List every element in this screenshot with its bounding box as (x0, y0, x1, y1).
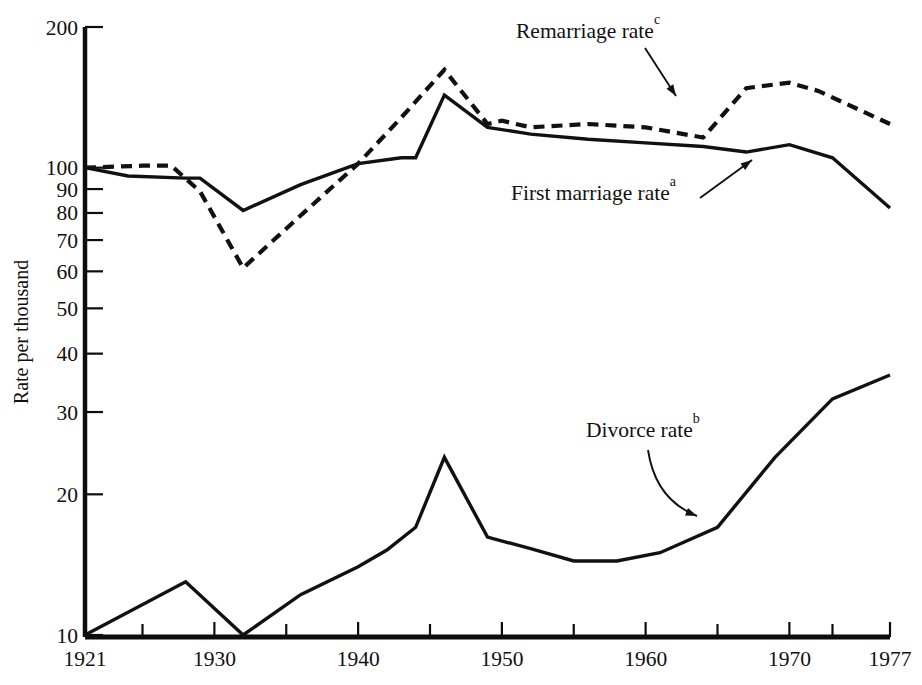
y-tick-label-200: 200 (46, 16, 78, 40)
y-axis-ticks (85, 27, 103, 635)
x-tick-label-1921: 1921 (64, 647, 107, 671)
arrowhead-remarriage-annotation (667, 84, 677, 96)
series-layer (85, 70, 890, 635)
y-tick-label-10: 10 (57, 624, 79, 648)
remarriage-rate-label: Remarriage ratec (516, 12, 660, 44)
chart-figure: 200100908070605040302010 192119301940195… (0, 0, 922, 685)
annotation-text: First marriage rate (511, 181, 670, 205)
annotation-text: Divorce rate (586, 418, 693, 442)
divorce-rate-label: Divorce rateb (586, 411, 700, 443)
line-chart-canvas: 200100908070605040302010 192119301940195… (0, 0, 922, 685)
series-first-marriage-rate (85, 95, 890, 210)
y-tick-label-50: 50 (57, 297, 79, 321)
y-tick-label-30: 30 (57, 401, 79, 425)
x-tick-label-1940: 1940 (337, 647, 380, 671)
x-tick-label-1950: 1950 (480, 647, 523, 671)
x-tick-label-1960: 1960 (624, 647, 667, 671)
arrowhead-first-marriage-annotation (741, 160, 753, 170)
annotation-superscript: a (670, 174, 677, 189)
y-axis-title: Rate per thousand (10, 260, 33, 404)
annotation-text: Remarriage rate (516, 19, 654, 43)
leader-line-divorce-annotation (648, 450, 697, 516)
y-tick-label-70: 70 (57, 229, 79, 253)
y-tick-label-80: 80 (57, 201, 79, 225)
y-tick-label-90: 90 (57, 178, 79, 202)
annotation-leaders (645, 48, 752, 516)
x-axis-tick-labels: 1921193019401950196019701977 (64, 647, 912, 671)
arrowhead-divorce-annotation (685, 508, 697, 516)
annotation-superscript: c (654, 12, 660, 27)
first-marriage-rate-label: First marriage ratea (511, 174, 677, 206)
series-remarriage-rate (85, 70, 890, 268)
x-tick-label-1977: 1977 (869, 647, 912, 671)
y-tick-label-40: 40 (57, 342, 79, 366)
x-tick-label-1930: 1930 (193, 647, 236, 671)
y-axis-tick-labels: 200100908070605040302010 (46, 16, 78, 648)
y-tick-label-60: 60 (57, 260, 79, 284)
annotation-superscript: b (693, 411, 700, 426)
series-divorce-rate (85, 375, 890, 635)
y-tick-label-20: 20 (57, 483, 79, 507)
x-tick-label-1970: 1970 (768, 647, 811, 671)
